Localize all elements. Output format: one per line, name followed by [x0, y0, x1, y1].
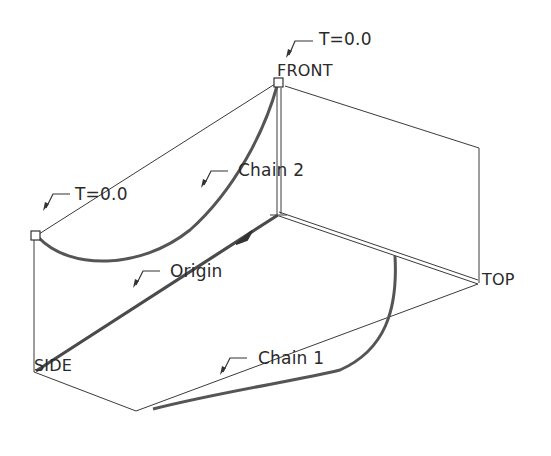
- origin-arrow-icon: [236, 231, 252, 244]
- front-plane-top-edge: [285, 86, 479, 148]
- t-front-label: T=0.0: [319, 31, 372, 48]
- bottom-left-edge: [34, 372, 136, 411]
- leader-chain1-icon: [223, 358, 247, 372]
- top-axis-b: [279, 216, 478, 284]
- chain2-label: Chain 2: [238, 162, 304, 179]
- chain1-label: Chain 1: [258, 350, 324, 367]
- left-endpoint-marker: [31, 231, 40, 240]
- front-plane-label: FRONT: [277, 63, 333, 79]
- origin-label: Origin: [170, 263, 223, 280]
- datum-diagram: [0, 0, 551, 456]
- top-plane-label: TOP: [482, 272, 515, 288]
- leader-origin-icon: [136, 271, 160, 285]
- side-plane-label: SIDE: [34, 358, 72, 374]
- leader-t-left-icon: [46, 194, 70, 208]
- leader-t-front-icon: [289, 41, 313, 55]
- leader-chain2-icon: [204, 171, 228, 185]
- top-axis-a: [279, 212, 478, 280]
- side-plane-top-edge: [39, 84, 275, 234]
- t-left-label: T=0.0: [75, 186, 128, 203]
